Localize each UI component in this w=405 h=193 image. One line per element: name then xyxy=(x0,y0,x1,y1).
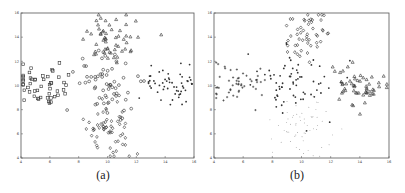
data-point-square xyxy=(53,95,56,98)
data-point-dot xyxy=(167,88,169,90)
data-point-diamond xyxy=(128,155,131,158)
data-point-diamond xyxy=(82,118,85,121)
data-point-circle xyxy=(83,65,86,68)
data-point-tiny-dot xyxy=(318,102,319,103)
x-tick-label: 6 xyxy=(49,160,52,164)
data-point-dot xyxy=(274,97,276,99)
data-point-dot xyxy=(300,98,302,100)
data-point-dot xyxy=(269,75,271,77)
data-point-tiny-dot xyxy=(286,122,287,123)
data-point-tiny-dot xyxy=(310,130,311,131)
series-top-cluster xyxy=(82,13,163,64)
data-point-diamond xyxy=(96,135,99,138)
data-point-tiny-dot xyxy=(287,132,288,133)
data-point-dot xyxy=(189,76,191,78)
data-point-dot xyxy=(295,84,297,86)
data-point-dot xyxy=(179,73,181,75)
data-point-diamond xyxy=(115,150,118,153)
data-point-dot xyxy=(150,87,152,89)
data-point-circle xyxy=(117,84,120,87)
data-point-diamond xyxy=(98,126,101,129)
data-point-plus xyxy=(257,75,259,77)
data-point-dot xyxy=(283,101,285,103)
data-point-plus xyxy=(255,88,257,90)
data-point-diamond xyxy=(307,41,310,44)
data-point-triangle xyxy=(125,34,128,37)
data-point-tiny-dot xyxy=(269,119,270,120)
plot-area: 4681012141646810121416 xyxy=(214,13,389,158)
data-point-dot xyxy=(290,73,292,75)
data-point-dot xyxy=(303,91,305,93)
data-point-dot xyxy=(289,57,291,59)
data-point-dot xyxy=(316,89,318,91)
x-tick-label: 12 xyxy=(328,160,333,164)
data-point-dot xyxy=(329,121,331,123)
y-tick-label: 6 xyxy=(17,132,20,136)
data-point-plus xyxy=(236,96,238,98)
data-point-diamond xyxy=(94,140,97,143)
data-point-diamond xyxy=(96,123,99,126)
data-point-triangle xyxy=(105,32,108,35)
data-point-square xyxy=(57,94,60,97)
data-point-triangle xyxy=(377,81,380,84)
data-point-dot xyxy=(150,75,152,77)
data-point-diamond xyxy=(296,33,299,36)
data-point-dot xyxy=(275,82,277,84)
data-point-triangle xyxy=(341,69,344,72)
data-point-square xyxy=(42,78,45,81)
data-point-square xyxy=(47,75,50,78)
data-point-tiny-dot xyxy=(290,124,291,125)
data-point-circle xyxy=(98,96,101,99)
data-point-circle xyxy=(90,75,93,78)
data-point-plus xyxy=(228,91,230,93)
data-point-tiny-dot xyxy=(304,119,305,120)
data-point-tiny-dot xyxy=(300,120,301,121)
data-point-triangle xyxy=(339,71,342,74)
data-point-dot xyxy=(180,91,182,93)
data-point-dot xyxy=(270,78,272,80)
data-point-dot xyxy=(349,60,351,62)
data-point-dot xyxy=(150,65,152,67)
data-point-tiny-dot xyxy=(272,152,273,153)
data-point-triangle xyxy=(124,47,127,50)
data-point-dot xyxy=(189,64,191,66)
data-point-dot xyxy=(179,93,181,95)
data-point-dot xyxy=(292,67,294,69)
data-point-diamond xyxy=(287,39,290,42)
data-point-dot xyxy=(281,86,283,88)
data-point-dot xyxy=(319,65,321,67)
data-point-triangle xyxy=(110,28,113,31)
data-point-triangle xyxy=(99,17,102,20)
data-point-dot xyxy=(174,93,176,95)
y-tick-label: 16 xyxy=(14,11,19,15)
y-tick-label: 10 xyxy=(207,84,212,88)
data-point-plus xyxy=(260,81,262,83)
data-point-dot xyxy=(292,81,294,83)
data-point-plus xyxy=(256,81,258,83)
data-point-triangle xyxy=(98,27,101,30)
data-point-triangle xyxy=(382,75,385,78)
data-point-dot xyxy=(311,64,313,66)
data-point-diamond xyxy=(315,41,318,44)
data-point-dot xyxy=(294,96,296,98)
data-point-diamond xyxy=(124,122,127,125)
data-point-tiny-dot xyxy=(297,132,298,133)
data-point-dot xyxy=(292,83,294,85)
data-point-diamond xyxy=(312,27,315,30)
data-point-diamond xyxy=(299,26,302,29)
data-point-square xyxy=(29,82,32,85)
data-point-diamond xyxy=(306,51,309,54)
data-point-circle xyxy=(107,88,110,91)
data-point-dot xyxy=(264,74,266,76)
data-point-dot xyxy=(169,104,171,106)
data-point-tiny-dot xyxy=(296,114,297,115)
data-point-dot xyxy=(177,90,179,92)
data-point-square xyxy=(65,84,68,87)
data-point-diamond xyxy=(110,120,113,123)
data-point-dot xyxy=(268,70,270,72)
data-point-tiny-dot xyxy=(295,135,296,136)
data-point-plus xyxy=(217,63,219,65)
data-point-dot xyxy=(275,106,277,108)
data-point-dot xyxy=(312,59,314,61)
data-point-tiny-dot xyxy=(294,136,295,137)
